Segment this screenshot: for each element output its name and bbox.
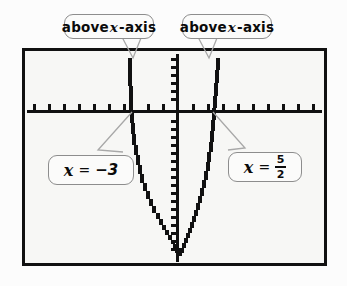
y-axis-ticks [171, 58, 176, 251]
callout-root-left: x = −3 [48, 155, 134, 185]
x-axis-ticks [33, 104, 315, 110]
equation-variable: x [64, 161, 74, 180]
callout-variable: x [109, 19, 119, 35]
equation-variable: x [244, 158, 254, 177]
equation-operator: = [258, 159, 270, 175]
equation-left: x = −3 [64, 161, 118, 180]
callout-text-before: above [62, 19, 109, 35]
fraction-denominator: 2 [277, 168, 285, 180]
callout-root-right: x = 5 2 [228, 152, 302, 182]
equation-fraction: 5 2 [275, 154, 286, 180]
equation-operator: = [78, 162, 90, 178]
callout-text-after: -axis [119, 19, 156, 35]
y-axis [171, 54, 179, 262]
callout-text-before: above [180, 19, 227, 35]
callout-leaders [98, 37, 245, 152]
equation-right: x = 5 2 [244, 154, 286, 180]
leader-root-left [98, 112, 132, 152]
callout-variable: x [227, 19, 237, 35]
figure-root: above x -axis above x -axis x = −3 x = 5… [0, 0, 347, 286]
callout-above-x-axis-left: above x -axis [64, 14, 154, 39]
leader-above-right [198, 37, 217, 58]
callout-above-x-axis-right: above x -axis [182, 14, 272, 39]
callout-text-after: -axis [237, 19, 274, 35]
fraction-numerator: 5 [277, 154, 285, 166]
equation-value: −3 [95, 161, 118, 179]
leader-root-right [213, 112, 245, 150]
leader-above-left [122, 37, 141, 58]
graph-plot [0, 0, 347, 286]
x-axis [27, 104, 322, 113]
